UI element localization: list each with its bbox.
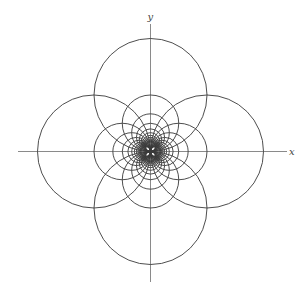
circle-family-diagram: x y (0, 0, 304, 295)
x-axis-label: x (289, 146, 295, 157)
axes (18, 24, 287, 282)
y-axis-label: y (147, 11, 154, 22)
